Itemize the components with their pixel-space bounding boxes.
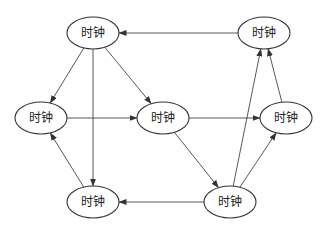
edge-a-to-c	[50, 48, 84, 103]
node-label: 时钟	[252, 25, 276, 40]
edge-d-to-g	[175, 132, 219, 187]
node-label: 时钟	[81, 194, 105, 209]
edge-e-to-b	[268, 49, 282, 102]
node-label: 时钟	[274, 110, 298, 125]
edge-f-to-c	[50, 133, 83, 187]
clock-state-diagram: 时钟时钟时钟时钟时钟时钟时钟	[0, 0, 326, 229]
node-label: 时钟	[151, 110, 175, 125]
node-b: 时钟	[238, 17, 290, 49]
node-c: 时钟	[15, 102, 67, 134]
edge-g-to-b	[233, 49, 261, 186]
edge-g-to-e	[240, 133, 276, 187]
node-label: 时钟	[218, 194, 242, 209]
nodes-layer: 时钟时钟时钟时钟时钟时钟时钟	[15, 17, 312, 218]
edge-a-to-d	[105, 47, 151, 103]
node-e: 时钟	[260, 102, 312, 134]
node-a: 时钟	[67, 17, 119, 49]
node-label: 时钟	[29, 110, 53, 125]
node-g: 时钟	[204, 186, 256, 218]
node-f: 时钟	[67, 186, 119, 218]
node-d: 时钟	[137, 102, 189, 134]
node-label: 时钟	[81, 25, 105, 40]
